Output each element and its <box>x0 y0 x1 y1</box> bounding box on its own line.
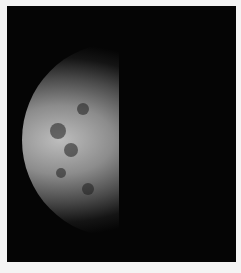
crater <box>82 183 94 195</box>
crater <box>50 123 66 139</box>
crater <box>77 103 89 115</box>
night-side <box>119 6 236 262</box>
photo-frame <box>7 6 236 262</box>
crater <box>64 143 78 157</box>
crater <box>56 168 66 178</box>
